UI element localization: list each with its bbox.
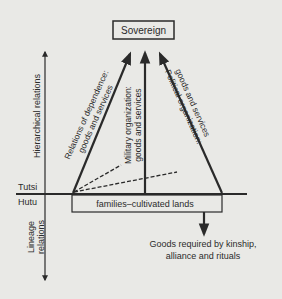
- tutsi-hutu-diagram: Sovereign Hierarchical relations Lineage…: [0, 0, 282, 299]
- families-label: families–cultivated lands: [96, 199, 194, 209]
- outflow-label-line1: Goods required by kinship,: [149, 239, 256, 249]
- military-label-line2: goods and services: [133, 88, 143, 161]
- sovereign-label: Sovereign: [121, 25, 166, 36]
- outflow-label-line2: alliance and rituals: [166, 251, 241, 261]
- lineage-relations-label-line2: relations: [36, 219, 46, 254]
- hierarchical-relations-label: Hierarchical relations: [32, 73, 42, 158]
- hutu-label: Hutu: [18, 197, 37, 207]
- dashed-line-political: [74, 172, 177, 192]
- tutsi-label: Tutsi: [18, 182, 37, 192]
- military-label-line1: Military organization:: [123, 86, 133, 164]
- sovereign-box: Sovereign: [113, 21, 174, 39]
- families-box: families–cultivated lands: [72, 195, 222, 212]
- dashed-line-military: [74, 165, 121, 192]
- lineage-relations-label-line1: Lineage: [26, 221, 36, 253]
